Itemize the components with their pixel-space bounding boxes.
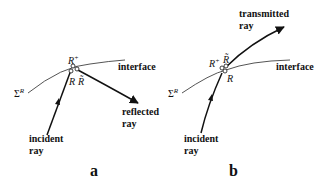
diagram-canvas xyxy=(0,0,330,187)
label-transmitted-ray-b: ray xyxy=(239,20,253,31)
panel-label-a: a xyxy=(90,162,98,180)
panel-label-b: b xyxy=(229,162,238,180)
label-interface-b: interface xyxy=(276,61,314,72)
incident-arrowhead-a xyxy=(55,98,60,105)
point-r-a xyxy=(69,69,73,73)
label-r-a: R xyxy=(69,76,75,87)
label-r-tilde-b: R̃ xyxy=(223,54,229,65)
interface-curve-b xyxy=(182,60,290,93)
label-r-plus-a: R+ xyxy=(68,53,79,66)
label-incident-ray-a: ray xyxy=(29,145,43,156)
label-incident-a: incident xyxy=(29,133,63,144)
point-r-tilde-a xyxy=(75,67,79,71)
incident-ray-b xyxy=(201,73,222,133)
label-incident-ray-b: ray xyxy=(184,145,198,156)
label-r-tilde-a: R̃ xyxy=(78,76,84,87)
label-incident-b: incident xyxy=(184,133,218,144)
panel-b-figure xyxy=(182,27,290,133)
label-reflected-ray-a: ray xyxy=(122,118,136,129)
reflected-ray-a xyxy=(76,69,138,103)
label-r-b: R xyxy=(227,73,233,84)
label-sigma-b: ΣR xyxy=(168,86,178,99)
label-sigma-a: ΣR xyxy=(14,86,24,99)
label-interface-a: interface xyxy=(118,61,156,72)
label-r-plus-b: R+ xyxy=(209,56,220,69)
label-transmitted-b: transmitted xyxy=(239,8,289,19)
label-reflected-a: reflected xyxy=(122,106,159,117)
